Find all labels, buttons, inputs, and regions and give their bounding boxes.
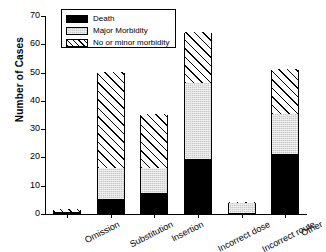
bar-segment-death [185,159,211,213]
x-axis-tick [285,214,286,218]
bar-other [271,70,299,214]
y-axis-tick [41,129,45,130]
bar-segment-no-or-minor-morbidity [54,209,80,212]
bar-incorrect-route [228,203,256,214]
bar-segment-no-or-minor-morbidity [141,114,167,168]
bar-segment-major-morbidity [185,83,211,159]
legend: DeathMajor MorbidityNo or minor morbidit… [61,9,176,48]
x-axis-line [45,214,307,215]
y-axis-tick-label: 0 [0,209,40,218]
bar-insertion [140,115,168,214]
x-axis-tick [67,214,68,218]
legend-label: No or minor morbidity [93,38,169,47]
bar-segment-death [141,193,167,213]
y-axis-tick-label: 70 [0,11,40,20]
bar-chart: Number of Cases 010203040506070 Omission… [0,0,326,252]
y-axis-tick [41,157,45,158]
x-axis-tick-label: Insertion [170,219,205,244]
y-axis-tick [41,44,45,45]
bar-segment-major-morbidity [98,168,124,199]
x-axis-tick-label: Omission [83,219,121,245]
y-axis-tick-label: 60 [0,39,40,48]
y-axis-tick-label: 20 [0,152,40,161]
bar-segment-major-morbidity [272,114,298,154]
y-axis-tick-label: 50 [0,68,40,77]
y-axis-tick-label: 40 [0,96,40,105]
y-axis-tick [41,186,45,187]
bar-substitution [97,73,125,214]
bar-segment-no-or-minor-morbidity [185,32,211,83]
bar-segment-major-morbidity [141,168,167,193]
legend-swatch-solid-black [66,15,88,23]
legend-label: Death [93,14,114,23]
y-axis-tick [41,73,45,74]
legend-item: Death [66,13,171,24]
x-axis-tick [111,214,112,218]
x-axis-tick [242,214,243,218]
bar-segment-death [54,212,80,213]
legend-item: Major Morbidity [66,25,171,36]
y-axis-tick-label: 30 [0,124,40,133]
y-axis-tick [41,101,45,102]
bar-segment-no-or-minor-morbidity [272,69,298,114]
y-axis-tick [41,214,45,215]
legend-label: Major Morbidity [93,26,148,35]
bar-segment-major-morbidity [229,203,255,213]
legend-item: No or minor morbidity [66,37,171,48]
bar-segment-no-or-minor-morbidity [98,72,124,168]
legend-swatch-diagonal-hatch [66,39,88,47]
bar-segment-death [98,199,124,213]
bar-incorrect-dose [184,33,212,214]
y-axis-tick [41,16,45,17]
y-axis-line [45,16,46,214]
x-axis-tick-label: Substitution [128,219,174,249]
x-axis-tick-label: Other [300,219,325,238]
bar-segment-death [272,154,298,213]
x-axis-tick [198,214,199,218]
legend-swatch-gray-stipple [66,27,88,35]
y-axis-tick-label: 10 [0,181,40,190]
x-axis-tick [154,214,155,218]
bar-segment-no-or-minor-morbidity [229,202,255,203]
